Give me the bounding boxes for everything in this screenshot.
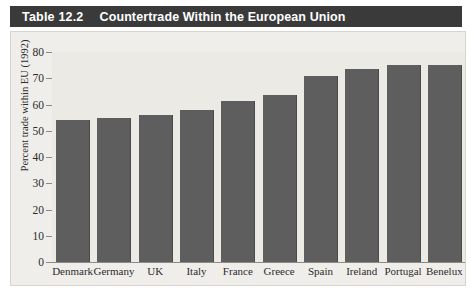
page-title: Countertrade Within the European Union: [100, 10, 346, 24]
bar-france: [221, 101, 255, 262]
bar-portugal: [387, 65, 421, 262]
y-axis-tick-label: 40: [16, 151, 44, 163]
y-axis-tick-label: 10: [16, 230, 44, 242]
y-axis-tick-label: 30: [16, 177, 44, 189]
bar-uk: [139, 115, 173, 262]
x-axis-label: Portugal: [382, 265, 423, 277]
bar-germany: [97, 118, 131, 262]
x-axis-label: Ireland: [341, 265, 382, 277]
figure-title-bar: Table 12.2 Countertrade Within the Europ…: [10, 6, 462, 27]
y-axis-tick-label: 70: [16, 72, 44, 84]
y-axis-tick: [46, 262, 52, 263]
x-axis-label: UK: [135, 265, 176, 277]
y-axis-tick-label: 50: [16, 125, 44, 137]
bar-spain: [304, 76, 338, 262]
bar-ireland: [345, 69, 379, 262]
x-axis-label: Benelux: [424, 265, 465, 277]
x-axis-line: [52, 262, 465, 263]
x-axis-label: Italy: [176, 265, 217, 277]
y-axis-tick-label: 0: [16, 256, 44, 268]
figure-container: Table 12.2 Countertrade Within the Europ…: [0, 0, 476, 297]
bars-layer: [52, 52, 465, 262]
y-axis-tick-label: 60: [16, 99, 44, 111]
x-axis-label: Denmark: [52, 265, 93, 277]
bar-benelux: [428, 65, 462, 262]
bar-denmark: [56, 120, 90, 262]
x-axis-label: France: [217, 265, 258, 277]
x-axis-label: Spain: [300, 265, 341, 277]
bar-greece: [263, 95, 297, 262]
bar-italy: [180, 110, 214, 262]
x-axis-label: Germany: [93, 265, 134, 277]
y-axis-tick-label: 80: [16, 46, 44, 58]
y-axis-tick-labels: 01020304050607080: [8, 0, 44, 297]
y-axis-tick-label: 20: [16, 204, 44, 216]
plot-area: [52, 52, 465, 262]
x-axis-label: Greece: [259, 265, 300, 277]
